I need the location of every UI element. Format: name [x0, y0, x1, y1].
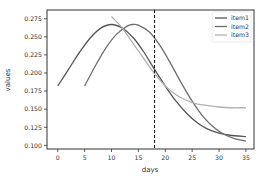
y-tick-label: 0.250 — [24, 33, 42, 40]
x-tick-label: 10 — [108, 154, 116, 161]
x-tick-label: 20 — [161, 154, 169, 161]
x-axis-label: days — [142, 166, 159, 174]
y-tick-label: 0.200 — [24, 69, 42, 76]
y-tick-label: 0.100 — [24, 142, 42, 149]
y-axis: 0.1000.1250.1500.1750.2000.2250.2500.275 — [24, 15, 47, 149]
legend-label-item2: item2 — [231, 23, 249, 30]
x-tick-label: 5 — [83, 154, 87, 161]
legend-label-item3: item3 — [231, 31, 249, 38]
legend-label-item1: item1 — [231, 14, 249, 21]
y-tick-label: 0.175 — [24, 87, 42, 94]
x-tick-label: 0 — [56, 154, 60, 161]
y-axis-label: values — [4, 68, 12, 91]
line-chart: 0.1000.1250.1500.1750.2000.2250.2500.275… — [0, 0, 269, 179]
x-tick-label: 25 — [188, 154, 196, 161]
x-axis: 05101520253035 — [56, 149, 250, 161]
x-tick-label: 30 — [215, 154, 223, 161]
y-tick-label: 0.150 — [24, 105, 42, 112]
y-tick-label: 0.275 — [24, 15, 42, 22]
x-tick-label: 15 — [134, 154, 142, 161]
legend: item1item2item3 — [212, 12, 251, 42]
y-tick-label: 0.225 — [24, 51, 42, 58]
y-tick-label: 0.125 — [24, 124, 42, 131]
x-tick-label: 35 — [242, 154, 250, 161]
